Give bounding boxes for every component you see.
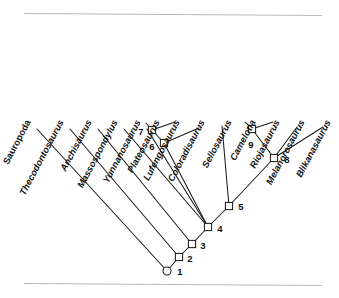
node-number-2: 2 — [187, 253, 192, 264]
branch-line — [147, 129, 208, 227]
node-number-9: 9 — [248, 139, 253, 150]
node-marker-square — [175, 253, 182, 260]
taxon-label-sellosaurus: Sellosaurus — [200, 118, 234, 169]
taxon-labels: SauropodaThecodontosaurusAnchisaurusMass… — [1, 118, 333, 197]
node-number-1: 1 — [177, 266, 183, 277]
cladogram-canvas: 123456789 SauropodaThecodontosaurusAnchi… — [0, 0, 339, 298]
top-rule — [24, 14, 322, 16]
node-marker-square — [188, 240, 195, 247]
node-marker-circle — [163, 267, 171, 275]
node-marker-square — [225, 202, 232, 209]
taxon-label-sauropoda: Sauropoda — [1, 118, 33, 166]
node-number-4: 4 — [217, 223, 223, 234]
node-number-3: 3 — [200, 240, 205, 251]
cladogram-figure: 123456789 SauropodaThecodontosaurusAnchi… — [0, 0, 339, 298]
bottom-rule — [24, 284, 322, 286]
node-number-5: 5 — [238, 201, 244, 212]
node-marker-square — [204, 223, 211, 230]
